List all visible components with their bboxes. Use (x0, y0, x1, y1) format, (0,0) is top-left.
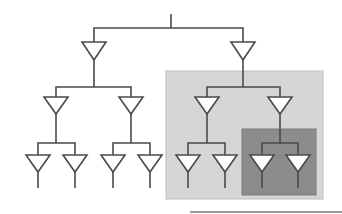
amplifier-triangle-icon (44, 97, 68, 114)
amplifier-triangle-icon (101, 155, 125, 172)
amplifier-triangle-icon (231, 42, 255, 60)
tree-diagram (0, 0, 342, 214)
amplifier-triangle-icon (63, 155, 87, 172)
amplifier-triangle-icon (82, 42, 106, 60)
amplifier-triangle-icon (138, 155, 162, 172)
amplifier-triangle-icon (119, 97, 143, 114)
amplifier-triangle-icon (26, 155, 50, 172)
